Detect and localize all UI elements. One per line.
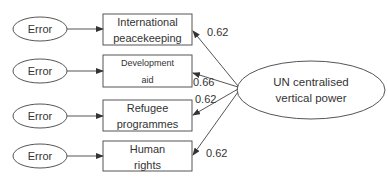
indicator-label-1-line2: peacekeeping [103,30,192,46]
indicator-label-1-line1: International [103,14,192,30]
loading-value-1: 0.62 [207,26,228,38]
indicator-label-4-line2: rights [103,157,192,173]
indicator-label-4-line1: Human [103,141,192,157]
error-label-3: Error [13,108,67,124]
latent-label: UN centralised vertical power [237,74,385,106]
error-label-2: Error [13,63,67,79]
error-label-4: Error [13,148,67,164]
indicator-label-2-line2: aid [103,72,192,89]
indicator-label-3-line1: Refugee [103,100,192,116]
indicator-label-2-line1: Development [103,55,192,72]
indicator-label-1: International peacekeeping [103,14,192,46]
indicator-label-3: Refugee programmes [103,100,192,132]
loading-value-4: 0.62 [206,147,227,159]
loading-value-2: 0.66 [193,76,214,88]
latent-label-line2: vertical power [237,90,385,106]
error-label-1: Error [13,21,67,37]
indicator-label-3-line2: programmes [103,116,192,132]
indicator-label-2: Development aid [103,55,192,89]
indicator-label-4: Human rights [103,141,192,173]
latent-label-line1: UN centralised [237,74,385,90]
loading-value-3: 0.62 [195,93,216,105]
